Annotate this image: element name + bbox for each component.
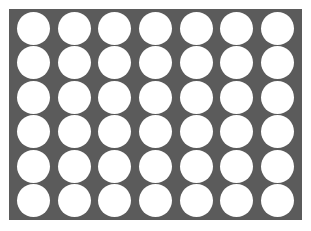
empty-slot [261, 81, 294, 114]
empty-slot [139, 46, 172, 79]
board-cell-r6-c4[interactable] [135, 184, 176, 219]
empty-slot [17, 150, 50, 183]
board-cell-r3-c1[interactable] [13, 80, 54, 115]
board-cell-r5-c4[interactable] [135, 149, 176, 184]
board-cell-r3-c2[interactable] [54, 80, 95, 115]
board-cell-r2-c3[interactable] [94, 46, 135, 81]
empty-slot [220, 115, 253, 148]
empty-slot [261, 12, 294, 45]
empty-slot [220, 81, 253, 114]
empty-slot [139, 150, 172, 183]
empty-slot [58, 46, 91, 79]
board-cell-r5-c2[interactable] [54, 149, 95, 184]
empty-slot [180, 46, 213, 79]
empty-slot [220, 150, 253, 183]
board-cell-r1-c3[interactable] [94, 11, 135, 46]
board-cell-r1-c1[interactable] [13, 11, 54, 46]
empty-slot [17, 12, 50, 45]
empty-slot [58, 184, 91, 217]
empty-slot [98, 46, 131, 79]
empty-slot [220, 46, 253, 79]
empty-slot [180, 81, 213, 114]
board-cell-r1-c5[interactable] [176, 11, 217, 46]
board-cell-r2-c6[interactable] [217, 46, 258, 81]
empty-slot [139, 184, 172, 217]
board-cell-r3-c7[interactable] [257, 80, 298, 115]
empty-slot [98, 184, 131, 217]
board-cell-r6-c1[interactable] [13, 184, 54, 219]
empty-slot [180, 115, 213, 148]
empty-slot [139, 12, 172, 45]
board-cell-r4-c2[interactable] [54, 115, 95, 150]
empty-slot [180, 12, 213, 45]
board-cell-r5-c6[interactable] [217, 149, 258, 184]
empty-slot [58, 12, 91, 45]
board-cell-r3-c4[interactable] [135, 80, 176, 115]
empty-slot [98, 150, 131, 183]
game-board [9, 9, 302, 220]
board-cell-r2-c1[interactable] [13, 46, 54, 81]
empty-slot [180, 150, 213, 183]
empty-slot [139, 115, 172, 148]
board-cell-r4-c6[interactable] [217, 115, 258, 150]
empty-slot [220, 184, 253, 217]
empty-slot [58, 150, 91, 183]
board-cell-r2-c4[interactable] [135, 46, 176, 81]
empty-slot [98, 81, 131, 114]
empty-slot [17, 81, 50, 114]
board-cell-r3-c3[interactable] [94, 80, 135, 115]
board-cell-r5-c1[interactable] [13, 149, 54, 184]
board-cell-r4-c5[interactable] [176, 115, 217, 150]
empty-slot [261, 184, 294, 217]
board-cell-r1-c6[interactable] [217, 11, 258, 46]
empty-slot [58, 81, 91, 114]
empty-slot [17, 115, 50, 148]
empty-slot [180, 184, 213, 217]
board-cell-r1-c2[interactable] [54, 11, 95, 46]
board-cell-r4-c3[interactable] [94, 115, 135, 150]
board-cell-r6-c5[interactable] [176, 184, 217, 219]
empty-slot [58, 115, 91, 148]
board-cell-r5-c3[interactable] [94, 149, 135, 184]
board-cell-r6-c7[interactable] [257, 184, 298, 219]
board-cell-r3-c5[interactable] [176, 80, 217, 115]
board-cell-r6-c6[interactable] [217, 184, 258, 219]
board-cell-r6-c2[interactable] [54, 184, 95, 219]
board-cell-r2-c7[interactable] [257, 46, 298, 81]
empty-slot [139, 81, 172, 114]
board-cell-r4-c4[interactable] [135, 115, 176, 150]
board-cell-r5-c7[interactable] [257, 149, 298, 184]
empty-slot [98, 12, 131, 45]
empty-slot [261, 46, 294, 79]
empty-slot [98, 115, 131, 148]
board-cell-r4-c7[interactable] [257, 115, 298, 150]
board-cell-r2-c5[interactable] [176, 46, 217, 81]
board-cell-r6-c3[interactable] [94, 184, 135, 219]
empty-slot [220, 12, 253, 45]
board-cell-r1-c7[interactable] [257, 11, 298, 46]
board-cell-r4-c1[interactable] [13, 115, 54, 150]
empty-slot [261, 115, 294, 148]
board-cell-r3-c6[interactable] [217, 80, 258, 115]
empty-slot [261, 150, 294, 183]
empty-slot [17, 184, 50, 217]
board-cell-r5-c5[interactable] [176, 149, 217, 184]
board-cell-r2-c2[interactable] [54, 46, 95, 81]
empty-slot [17, 46, 50, 79]
board-cell-r1-c4[interactable] [135, 11, 176, 46]
